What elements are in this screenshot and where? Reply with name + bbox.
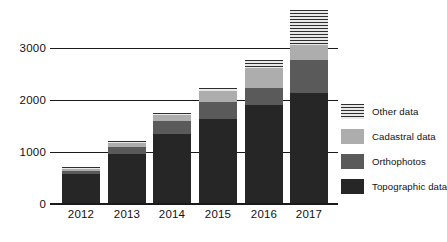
bar-2012[interactable] [62,167,100,203]
bar-segment-other-data-2017[interactable] [290,10,328,45]
bar-segment-topographic-data-2016[interactable] [245,105,283,203]
legend-label-cadastral-data: Cadastral data [372,131,436,142]
bar-segment-other-data-2016[interactable] [245,60,283,68]
bar-segment-cadastral-data-2017[interactable] [290,45,328,60]
legend-label-other-data: Other data [372,106,418,117]
orthophotos-swatch [341,154,364,169]
bar-segment-topographic-data-2012[interactable] [62,174,100,203]
legend-item-other-data[interactable]: Other data [341,100,445,122]
bar-segment-orthophotos-2016[interactable] [245,88,283,105]
bar-2014[interactable] [153,113,191,203]
legend-label-topographic-data: Topographic data [372,181,447,192]
bar-segment-topographic-data-2017[interactable] [290,93,328,203]
legend-item-cadastral-data[interactable]: Cadastral data [341,125,445,147]
x-label-2017: 2017 [290,208,328,220]
y-tick-2000: 2000 [20,94,46,106]
y-axis-labels: 0 1000 2000 3000 [0,0,50,242]
bar-segment-orthophotos-2015[interactable] [199,102,237,119]
bar-segment-orthophotos-2017[interactable] [290,60,328,94]
y-tick-0: 0 [39,198,46,210]
legend-label-orthophotos: Orthophotos [372,156,426,167]
legend-item-topographic-data[interactable]: Topographic data [341,175,445,197]
bar-segment-cadastral-data-2015[interactable] [199,91,237,102]
bar-2013[interactable] [108,141,146,203]
bar-segment-cadastral-data-2016[interactable] [245,68,283,88]
x-axis-labels: 201220132014201520162017 [58,208,332,232]
y-tick-3000: 3000 [20,42,46,54]
y-tick-1000: 1000 [20,146,46,158]
topographic-data-swatch [341,179,364,194]
x-label-2013: 2013 [108,208,146,220]
bar-segment-orthophotos-2013[interactable] [108,147,146,154]
bar-group [58,4,332,204]
x-label-2016: 2016 [245,208,283,220]
x-label-2015: 2015 [199,208,237,220]
bar-2017[interactable] [290,10,328,203]
plot-area [58,4,332,204]
other-data-swatch [341,104,364,119]
bar-2016[interactable] [245,60,283,203]
legend-item-orthophotos[interactable]: Orthophotos [341,150,445,172]
bar-segment-topographic-data-2015[interactable] [199,119,237,203]
bar-2015[interactable] [199,88,237,203]
bar-segment-topographic-data-2014[interactable] [153,134,191,203]
cadastral-data-swatch [341,129,364,144]
x-label-2014: 2014 [153,208,191,220]
chart-legend: Other data Cadastral data Orthophotos To… [341,100,445,200]
bar-segment-topographic-data-2013[interactable] [108,154,146,203]
bar-segment-orthophotos-2014[interactable] [153,121,191,134]
x-label-2012: 2012 [62,208,100,220]
